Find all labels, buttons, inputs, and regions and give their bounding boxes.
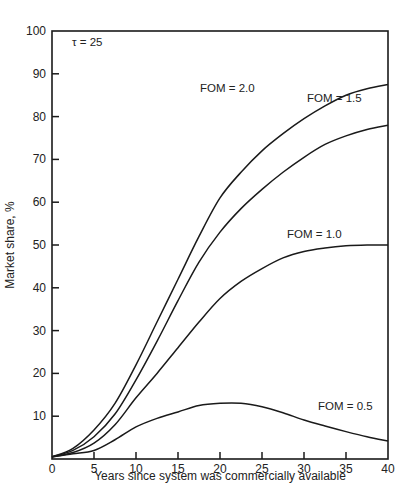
y-tick-label: 60 xyxy=(33,195,47,209)
curve-label: FOM = 1.0 xyxy=(287,228,342,240)
y-tick-label: 80 xyxy=(33,110,47,124)
curve-label: FOM = 0.5 xyxy=(318,400,373,412)
y-tick-label: 90 xyxy=(33,67,47,81)
y-tick-label: 10 xyxy=(33,409,47,423)
market-share-chart: 102030405060708090100 0510152025303540 F… xyxy=(0,0,408,503)
x-axis-title: Years since system was commercially avai… xyxy=(94,469,346,483)
y-axis-title: Market share, % xyxy=(3,201,17,289)
y-tick-label: 40 xyxy=(33,281,47,295)
y-tick-label: 20 xyxy=(33,366,47,380)
y-tick-label: 70 xyxy=(33,152,47,166)
curve-label: FOM = 1.5 xyxy=(307,92,362,104)
y-tick-label: 100 xyxy=(26,24,46,38)
y-axis-ticks: 102030405060708090100 xyxy=(26,24,59,423)
x-tick-label: 40 xyxy=(381,462,395,476)
y-tick-label: 30 xyxy=(33,324,47,338)
x-tick-label: 0 xyxy=(49,462,56,476)
curve-1-0 xyxy=(52,245,388,457)
y-tick-label: 50 xyxy=(33,238,47,252)
tau-annotation: τ = 25 xyxy=(72,36,102,48)
curve-label: FOM = 2.0 xyxy=(200,82,255,94)
